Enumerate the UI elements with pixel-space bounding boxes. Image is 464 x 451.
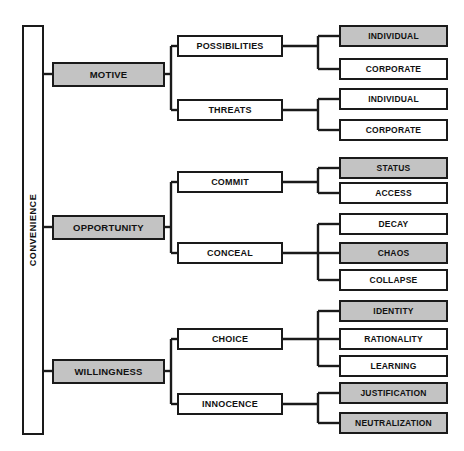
node-chaos[interactable]: CHAOS <box>339 242 448 264</box>
node-choice[interactable]: CHOICE <box>177 328 283 350</box>
node-rationality-label: RATIONALITY <box>364 335 423 344</box>
node-innocence-label: INNOCENCE <box>202 400 258 409</box>
node-corporate-threats[interactable]: CORPORATE <box>339 119 448 141</box>
node-collapse[interactable]: COLLAPSE <box>339 269 448 291</box>
node-individual-threats[interactable]: INDIVIDUAL <box>339 88 448 110</box>
node-threats-label: THREATS <box>208 106 251 115</box>
node-motive[interactable]: MOTIVE <box>52 62 165 87</box>
node-conceal[interactable]: CONCEAL <box>177 242 283 264</box>
node-corporate-possibilities[interactable]: CORPORATE <box>339 58 448 80</box>
node-opportunity[interactable]: OPPORTUNITY <box>52 215 165 240</box>
node-collapse-label: COLLAPSE <box>370 276 418 285</box>
node-innocence[interactable]: INNOCENCE <box>177 393 283 415</box>
node-justification-label: JUSTIFICATION <box>360 389 426 398</box>
node-rationality[interactable]: RATIONALITY <box>339 328 448 350</box>
node-choice-label: CHOICE <box>212 335 248 344</box>
node-commit-label: COMMIT <box>211 178 249 187</box>
node-threats[interactable]: THREATS <box>177 99 283 121</box>
node-justification[interactable]: JUSTIFICATION <box>339 382 448 404</box>
figure-canvas: CONVENIENCE MOTIVE OPPORTUNITY WILLINGNE… <box>0 0 464 451</box>
node-convenience[interactable]: CONVENIENCE <box>22 25 44 435</box>
node-learning[interactable]: LEARNING <box>339 355 448 377</box>
node-chaos-label: CHAOS <box>378 249 410 258</box>
node-identity[interactable]: IDENTITY <box>339 300 448 322</box>
node-access[interactable]: ACCESS <box>339 182 448 204</box>
node-individual-threats-label: INDIVIDUAL <box>368 95 419 104</box>
node-neutralization-label: NEUTRALIZATION <box>355 419 432 428</box>
node-willingness-label: WILLINGNESS <box>74 367 142 377</box>
node-possibilities[interactable]: POSSIBILITIES <box>177 35 283 57</box>
node-decay[interactable]: DECAY <box>339 213 448 235</box>
node-convenience-label: CONVENIENCE <box>28 194 38 267</box>
node-possibilities-label: POSSIBILITIES <box>196 42 263 51</box>
node-opportunity-label: OPPORTUNITY <box>73 223 144 233</box>
node-decay-label: DECAY <box>379 220 409 229</box>
node-corporate-threats-label: CORPORATE <box>366 126 421 135</box>
node-status[interactable]: STATUS <box>339 157 448 179</box>
node-willingness[interactable]: WILLINGNESS <box>52 359 165 384</box>
node-status-label: STATUS <box>377 164 411 173</box>
node-access-label: ACCESS <box>375 189 412 198</box>
node-individual-possibilities[interactable]: INDIVIDUAL <box>339 25 448 47</box>
node-corporate-possibilities-label: CORPORATE <box>366 65 421 74</box>
node-neutralization[interactable]: NEUTRALIZATION <box>339 412 448 434</box>
node-conceal-label: CONCEAL <box>207 249 253 258</box>
node-commit[interactable]: COMMIT <box>177 171 283 193</box>
node-identity-label: IDENTITY <box>373 307 413 316</box>
node-learning-label: LEARNING <box>371 362 417 371</box>
node-motive-label: MOTIVE <box>90 70 128 80</box>
node-individual-possibilities-label: INDIVIDUAL <box>368 32 419 41</box>
